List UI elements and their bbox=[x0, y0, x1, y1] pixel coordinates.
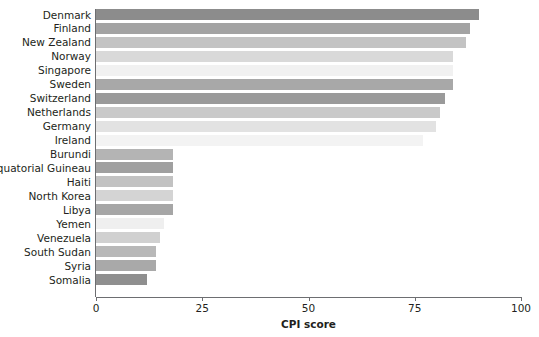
bar-row: Norway bbox=[96, 51, 453, 62]
bar-row: Netherlands bbox=[96, 107, 440, 118]
bar-row: Singapore bbox=[96, 65, 453, 76]
x-tick bbox=[96, 297, 97, 301]
bar bbox=[96, 218, 164, 229]
bar bbox=[96, 162, 173, 173]
bar-row: Ireland bbox=[96, 135, 423, 146]
bar bbox=[96, 246, 156, 257]
bar-row: Finland bbox=[96, 23, 470, 34]
bar bbox=[96, 149, 173, 160]
bar bbox=[96, 121, 436, 132]
bar-row: South Sudan bbox=[96, 246, 156, 257]
category-label: Syria bbox=[64, 260, 91, 271]
x-tick-label: 0 bbox=[93, 302, 100, 314]
bar-row: Venezuela bbox=[96, 232, 160, 243]
bar-row: Germany bbox=[96, 121, 436, 132]
bar bbox=[96, 107, 440, 118]
bar bbox=[96, 65, 453, 76]
x-tick bbox=[202, 297, 203, 301]
bar bbox=[96, 260, 156, 271]
bar-row: Denmark bbox=[96, 9, 479, 20]
category-label: Sweden bbox=[50, 79, 92, 90]
bar-row: Somalia bbox=[96, 274, 147, 285]
bar-row: Equatorial Guineau bbox=[96, 162, 173, 173]
bar bbox=[96, 176, 173, 187]
bar bbox=[96, 204, 173, 215]
category-label: Switzerland bbox=[30, 93, 91, 104]
category-label: Burundi bbox=[50, 149, 91, 160]
bar-row: Haiti bbox=[96, 176, 173, 187]
x-tick-label: 50 bbox=[302, 302, 315, 314]
x-tick-label: 25 bbox=[196, 302, 209, 314]
category-label: Yemen bbox=[56, 218, 91, 229]
x-tick-label: 75 bbox=[408, 302, 421, 314]
category-label: Haiti bbox=[67, 176, 91, 187]
bar-row: Syria bbox=[96, 260, 156, 271]
bar-row: Libya bbox=[96, 204, 173, 215]
category-label: Ireland bbox=[55, 135, 91, 146]
category-label: Equatorial Guineau bbox=[0, 162, 91, 173]
category-label: Denmark bbox=[43, 9, 91, 20]
category-label: Venezuela bbox=[37, 232, 91, 243]
cpi-score-bar-chart: DenmarkFinlandNew ZealandNorwaySingapore… bbox=[0, 0, 539, 337]
bar-row: Burundi bbox=[96, 149, 173, 160]
bar-row: Sweden bbox=[96, 79, 453, 90]
bar bbox=[96, 93, 445, 104]
x-tick-label: 100 bbox=[511, 302, 531, 314]
bar bbox=[96, 9, 479, 20]
category-label: Somalia bbox=[49, 274, 91, 285]
bar bbox=[96, 37, 466, 48]
bar bbox=[96, 79, 453, 90]
bar bbox=[96, 232, 160, 243]
plot-area: DenmarkFinlandNew ZealandNorwaySingapore… bbox=[96, 9, 521, 295]
category-label: Libya bbox=[63, 204, 91, 215]
x-axis-title: CPI score bbox=[96, 318, 521, 330]
bar bbox=[96, 23, 470, 34]
bar bbox=[96, 190, 173, 201]
x-tick bbox=[309, 297, 310, 301]
category-label: Singapore bbox=[38, 65, 91, 76]
x-tick bbox=[521, 297, 522, 301]
bar-row: Yemen bbox=[96, 218, 164, 229]
category-label: Finland bbox=[53, 23, 91, 34]
category-label: Netherlands bbox=[27, 107, 91, 118]
bar bbox=[96, 135, 423, 146]
bar-row: Switzerland bbox=[96, 93, 445, 104]
category-label: Norway bbox=[51, 51, 91, 62]
category-label: Germany bbox=[43, 121, 91, 132]
category-label: South Sudan bbox=[24, 246, 91, 257]
category-label: New Zealand bbox=[22, 37, 91, 48]
bar-row: North Korea bbox=[96, 190, 173, 201]
bar bbox=[96, 274, 147, 285]
bar bbox=[96, 51, 453, 62]
category-label: North Korea bbox=[29, 190, 91, 201]
bar-row: New Zealand bbox=[96, 37, 466, 48]
x-tick bbox=[415, 297, 416, 301]
